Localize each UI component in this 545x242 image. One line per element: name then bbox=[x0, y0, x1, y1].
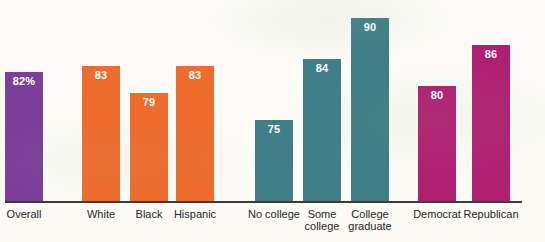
bar-some-college: 84 bbox=[303, 59, 341, 203]
bar-hispanic: 83 bbox=[176, 66, 214, 203]
bar-value-label: 84 bbox=[303, 62, 341, 74]
bar-chart-figure: 82%8379837584908086 OverallWhiteBlackHis… bbox=[0, 0, 545, 242]
bar-value-label: 79 bbox=[130, 96, 168, 108]
category-label-no-college: No college bbox=[248, 208, 300, 220]
bar-democrat: 80 bbox=[418, 86, 456, 203]
bar-no-college: 75 bbox=[255, 120, 293, 203]
bar-white: 83 bbox=[82, 66, 120, 203]
bar-value-label: 83 bbox=[82, 69, 120, 81]
bar-value-label: 86 bbox=[472, 48, 510, 60]
bar-college-graduate: 90 bbox=[351, 18, 389, 203]
bar-republican: 86 bbox=[472, 45, 510, 203]
category-label-hispanic: Hispanic bbox=[160, 208, 230, 220]
category-label-republican: Republican bbox=[453, 208, 529, 220]
category-label-overall: Overall bbox=[0, 208, 54, 220]
bar-value-label: 82% bbox=[5, 75, 43, 87]
bar-value-label: 80 bbox=[418, 89, 456, 101]
bar-overall: 82% bbox=[5, 72, 43, 203]
bar-value-label: 90 bbox=[351, 21, 389, 33]
x-axis-line bbox=[5, 201, 522, 203]
bar-black: 79 bbox=[130, 93, 168, 203]
bar-value-label: 83 bbox=[176, 69, 214, 81]
bar-value-label: 75 bbox=[255, 123, 293, 135]
category-label-college-graduate: College graduate bbox=[339, 208, 401, 232]
